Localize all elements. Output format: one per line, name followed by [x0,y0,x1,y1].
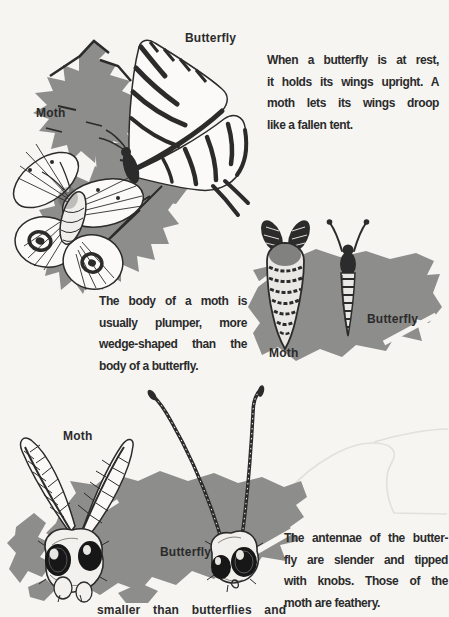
figure3-butterfly-label: Butterfly [160,545,211,559]
caption-line: The body of a moth is [99,291,247,313]
clipped-bottom-text: smaller than butterflies and [97,603,286,617]
caption-line: moth lets its wings droop [267,93,439,115]
caption-line: usually plumper, more [99,313,247,335]
figure3-moth-label: Moth [63,429,92,443]
caption-line: fly are slender and tipped [284,550,448,572]
caption-body-shape: The body of a moth is usually plumper, m… [99,291,247,377]
figure2-moth-label: Moth [269,346,298,360]
caption-line: body of a butterfly. [99,356,247,378]
figure1-butterfly-label: Butterfly [185,31,236,45]
faint-pencil-sketch [286,429,448,514]
caption-line: it holds its wings upright. A [267,72,439,94]
caption-resting-wings: When a butterfly is at rest, it holds it… [267,50,439,136]
caption-line: like a fallen tent. [267,115,439,137]
figure1-moth-label: Moth [36,106,65,120]
caption-line: with knobs. Those of the [284,571,448,593]
caption-line: The antennae of the butter- [284,528,448,550]
figure2-butterfly-label: Butterfly [367,312,418,326]
caption-line: When a butterfly is at rest, [267,50,439,72]
caption-line: wedge-shaped than the [99,334,247,356]
resting-wings-illustration [0,20,270,335]
caption-line: moth are feathery. [284,593,448,615]
caption-antennae: The antennae of the butter- fly are slen… [284,528,448,614]
